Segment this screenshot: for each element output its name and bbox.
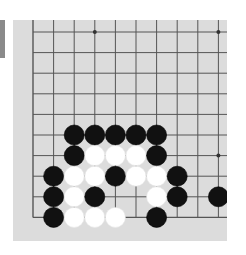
- board-intersection[interactable]: [167, 207, 188, 228]
- board-intersection[interactable]: [146, 22, 167, 43]
- board-intersection[interactable]: [167, 145, 188, 166]
- board-intersection[interactable]: [126, 84, 147, 105]
- black-stone[interactable]: [85, 187, 105, 207]
- board-intersection[interactable]: [208, 22, 227, 43]
- board-intersection[interactable]: [126, 42, 147, 63]
- board-intersection[interactable]: [188, 125, 209, 146]
- white-stone[interactable]: [147, 187, 167, 207]
- board-intersection[interactable]: [105, 42, 126, 63]
- black-stone[interactable]: [147, 125, 167, 145]
- board-intersection[interactable]: [208, 125, 227, 146]
- board-intersection[interactable]: [105, 84, 126, 105]
- board-intersection[interactable]: [23, 145, 44, 166]
- board-intersection[interactable]: [188, 207, 209, 228]
- board-intersection[interactable]: [126, 207, 147, 228]
- black-stone[interactable]: [44, 166, 64, 186]
- board-intersection[interactable]: [64, 84, 85, 105]
- black-stone[interactable]: [85, 125, 105, 145]
- board-intersection[interactable]: [105, 22, 126, 43]
- board-intersection[interactable]: [105, 63, 126, 84]
- black-stone[interactable]: [105, 125, 125, 145]
- board-intersection[interactable]: [43, 22, 64, 43]
- board-intersection[interactable]: [188, 22, 209, 43]
- board-intersection[interactable]: [43, 145, 64, 166]
- board-intersection[interactable]: [85, 84, 106, 105]
- board-intersection[interactable]: [146, 104, 167, 125]
- board-intersection[interactable]: [43, 84, 64, 105]
- board-intersection[interactable]: [23, 166, 44, 187]
- board-intersection[interactable]: [208, 63, 227, 84]
- board-intersection[interactable]: [167, 104, 188, 125]
- black-stone[interactable]: [105, 166, 125, 186]
- board-intersection[interactable]: [23, 84, 44, 105]
- board-intersection[interactable]: [64, 42, 85, 63]
- board-intersection[interactable]: [43, 104, 64, 125]
- board-intersection[interactable]: [126, 187, 147, 208]
- board-intersection[interactable]: [146, 63, 167, 84]
- board-intersection[interactable]: [188, 42, 209, 63]
- board-intersection[interactable]: [208, 145, 227, 166]
- white-stone[interactable]: [126, 146, 146, 166]
- board-intersection[interactable]: [208, 207, 227, 228]
- board-intersection[interactable]: [43, 63, 64, 84]
- go-board[interactable]: Go board (partial view, lower-left corne…: [13, 20, 227, 241]
- board-intersection[interactable]: [23, 187, 44, 208]
- board-intersection[interactable]: [126, 22, 147, 43]
- board-intersection[interactable]: [208, 42, 227, 63]
- board-intersection[interactable]: [64, 22, 85, 43]
- board-intersection[interactable]: [23, 104, 44, 125]
- board-intersection[interactable]: [85, 63, 106, 84]
- board-intersection[interactable]: [43, 125, 64, 146]
- black-stone[interactable]: [64, 125, 84, 145]
- board-intersection[interactable]: [105, 104, 126, 125]
- white-stone[interactable]: [64, 187, 84, 207]
- board-intersection[interactable]: [64, 63, 85, 84]
- board-intersection[interactable]: [208, 166, 227, 187]
- board-intersection[interactable]: [23, 207, 44, 228]
- black-stone[interactable]: [167, 166, 187, 186]
- board-intersection[interactable]: [167, 125, 188, 146]
- white-stone[interactable]: [85, 166, 105, 186]
- black-stone[interactable]: [44, 207, 64, 227]
- board-intersection[interactable]: [105, 187, 126, 208]
- white-stone[interactable]: [85, 146, 105, 166]
- board-intersection[interactable]: [188, 145, 209, 166]
- black-stone[interactable]: [147, 207, 167, 227]
- board-intersection[interactable]: [188, 63, 209, 84]
- board-intersection[interactable]: [64, 104, 85, 125]
- white-stone[interactable]: [64, 166, 84, 186]
- board-intersection[interactable]: [146, 42, 167, 63]
- board-intersection[interactable]: [167, 84, 188, 105]
- board-intersection[interactable]: [188, 187, 209, 208]
- board-intersection[interactable]: [23, 22, 44, 43]
- side-panel-tab[interactable]: [0, 20, 5, 58]
- board-intersection[interactable]: [188, 166, 209, 187]
- board-intersection[interactable]: [188, 104, 209, 125]
- board-intersection[interactable]: [23, 63, 44, 84]
- board-intersection[interactable]: [167, 63, 188, 84]
- board-intersection[interactable]: [126, 63, 147, 84]
- board-intersection[interactable]: [126, 104, 147, 125]
- board-intersection[interactable]: [208, 104, 227, 125]
- board-intersection[interactable]: [167, 42, 188, 63]
- board-intersection[interactable]: [23, 42, 44, 63]
- board-intersection[interactable]: [23, 125, 44, 146]
- board-intersection[interactable]: [146, 84, 167, 105]
- board-intersection[interactable]: [188, 84, 209, 105]
- board-intersection[interactable]: [208, 84, 227, 105]
- board-intersection[interactable]: [85, 22, 106, 43]
- board-intersection[interactable]: [167, 22, 188, 43]
- board-grid[interactable]: [13, 20, 227, 241]
- white-stone[interactable]: [64, 207, 84, 227]
- board-intersection[interactable]: [85, 42, 106, 63]
- black-stone[interactable]: [208, 187, 227, 207]
- white-stone[interactable]: [147, 166, 167, 186]
- black-stone[interactable]: [64, 146, 84, 166]
- white-stone[interactable]: [85, 207, 105, 227]
- white-stone[interactable]: [105, 146, 125, 166]
- black-stone[interactable]: [44, 187, 64, 207]
- black-stone[interactable]: [126, 125, 146, 145]
- board-intersection[interactable]: [43, 42, 64, 63]
- white-stone[interactable]: [126, 166, 146, 186]
- black-stone[interactable]: [167, 187, 187, 207]
